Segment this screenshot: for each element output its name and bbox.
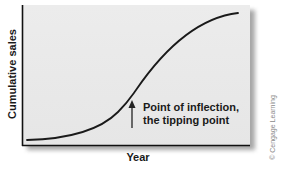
annotation-line-1: Point of inflection, <box>143 101 239 114</box>
annotation-line-2: the tipping point <box>143 114 239 127</box>
arrow-up-icon <box>129 100 136 128</box>
copyright-notice: © Cengage Learning <box>269 78 276 169</box>
x-axis-label: Year <box>118 151 158 163</box>
s-curve-chart <box>0 0 285 168</box>
y-axis-label: Cumulative sales <box>6 29 18 119</box>
inflection-annotation: Point of inflection, the tipping point <box>143 101 239 127</box>
